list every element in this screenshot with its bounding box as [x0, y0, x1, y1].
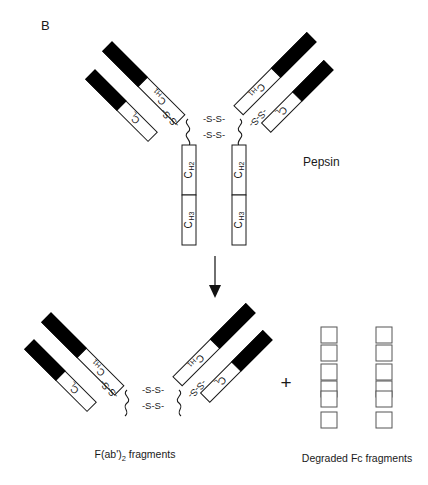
hinge-disulfide-lower: -S-S- [203, 129, 225, 140]
fc-right-ch3-label: C [233, 221, 244, 228]
fc-fragment-piece [321, 364, 337, 380]
fc-right-ch2-label: C [233, 171, 244, 178]
fc-fragments-caption: Degraded Fc fragments [302, 452, 412, 464]
fc-left-ch2-subscript: H2 [188, 161, 195, 170]
fc-fragment-piece [376, 364, 392, 380]
fc-fragment-piece [376, 412, 392, 428]
fc-left-ch3-subscript: H3 [188, 211, 195, 220]
fc-fragment-piece [321, 327, 337, 343]
enzyme-label-pepsin: Pepsin [303, 155, 340, 169]
fab2-caption-main: F(ab') [95, 448, 122, 460]
fc-fragment-piece [321, 345, 337, 361]
fc-left-ch3-label: C [183, 221, 194, 228]
fc-fragment-column-right [376, 327, 392, 428]
fc-fragment-piece [376, 345, 392, 361]
fc-left-ch2-label: C [183, 171, 194, 178]
fab2-hinge-disulfide-upper: -S-S- [142, 384, 164, 395]
fc-right-ch2-subscript: H2 [238, 161, 245, 170]
fc-fragment-piece [321, 412, 337, 428]
antibody-pepsin-digestion-diagram: B C L C [0, 0, 428, 485]
fc-fragment-column-left [321, 327, 337, 428]
fc-left-chain: C H2 C H3 [182, 145, 196, 245]
fab2-caption-rest: fragments [126, 448, 176, 460]
fc-fragment-piece [376, 327, 392, 343]
hinge-disulfide-upper: -S-S- [203, 113, 225, 124]
fc-right-chain: C H2 C H3 [232, 145, 246, 245]
fc-fragment-piece [321, 391, 337, 407]
panel-label-b: B [41, 18, 50, 33]
fc-fragment-piece [376, 391, 392, 407]
fc-right-ch3-subscript: H3 [238, 211, 245, 220]
figure-background [0, 0, 428, 485]
fab2-hinge-disulfide-lower: -S-S- [142, 400, 164, 411]
figure-panel-b: B C L C [0, 0, 428, 485]
plus-sign: + [280, 372, 291, 393]
